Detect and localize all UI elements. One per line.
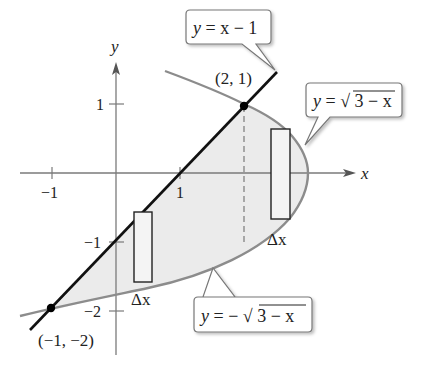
callout-lower-eq: = − — [214, 306, 239, 326]
area-between-curves-diagram: y x −1 1 1 −1 −2 (2, 1) (−1, −2) Δx Δx y… — [0, 0, 425, 366]
callout-upper-radical-icon: √ — [340, 91, 350, 111]
delta-x-label-left: Δx — [131, 290, 151, 309]
point-label-2-1: (2, 1) — [215, 69, 252, 88]
y-tick-label-neg2: −2 — [84, 303, 101, 320]
callout-line-eq: = x − 1 — [206, 18, 258, 38]
x-axis-label: x — [360, 164, 369, 183]
svg-text:y = − √ 3 −: y = − √ 3 − x — [199, 306, 294, 326]
callout-upper-curve-equation: y = √ 3 − x — [305, 83, 402, 145]
delta-x-label-right: Δx — [267, 230, 287, 249]
callout-lower-curve-equation: y = − √ 3 − x — [194, 268, 312, 332]
callout-upper-y: y — [311, 91, 321, 111]
callout-line-y: y — [191, 18, 201, 38]
x-tick-label-neg1: −1 — [41, 184, 58, 201]
point-neg1-neg2 — [47, 304, 55, 312]
svg-text:y = √ 3 − x: y = √ 3 − x — [311, 91, 392, 111]
callout-lower-radicand: 3 − x — [257, 306, 294, 326]
point-2-1 — [240, 102, 248, 110]
point-label-neg1-neg2: (−1, −2) — [38, 331, 94, 350]
callout-lower-radical-icon: √ — [243, 306, 253, 326]
y-tick-label-1: 1 — [96, 96, 104, 113]
svg-text:y = x − 1: y = x − 1 — [191, 18, 257, 38]
y-axis-label: y — [109, 37, 119, 56]
x-tick-label-1: 1 — [176, 184, 184, 201]
callout-line-equation: y = x − 1 — [186, 10, 275, 70]
delta-x-rectangle-right — [271, 129, 290, 219]
delta-x-rectangle-left — [134, 212, 152, 282]
y-tick-label-neg1: −1 — [84, 234, 101, 251]
callout-upper-radicand: 3 − x — [355, 91, 392, 111]
callout-lower-y: y — [199, 306, 209, 326]
callout-upper-eq: = — [326, 91, 341, 111]
